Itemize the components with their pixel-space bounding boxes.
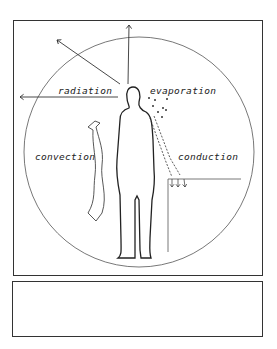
evaporation-droplets-icon	[148, 97, 168, 118]
label-evaporation: evaporation	[150, 85, 216, 96]
label-conduction: conduction	[178, 151, 238, 162]
heat-loss-illustration: radiation evaporation convection conduct…	[0, 0, 277, 349]
conduction-arrows-icon	[172, 179, 185, 187]
human-figure-icon	[117, 87, 155, 258]
label-convection: convection	[35, 151, 95, 162]
convection-ribbon-icon	[88, 121, 104, 221]
label-radiation: radiation	[58, 85, 112, 96]
wall-surface	[168, 179, 241, 252]
